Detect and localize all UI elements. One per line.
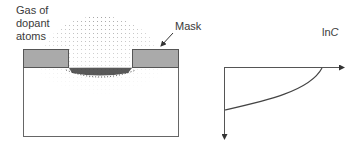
mask-right [133, 50, 179, 68]
mask-pointer-arrow [161, 33, 173, 46]
diffusion-diagram [0, 0, 361, 143]
concentration-profile-curve [225, 68, 322, 110]
mask-left [24, 50, 69, 68]
